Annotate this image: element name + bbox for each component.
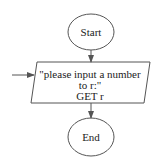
flowchart-canvas: Start "please input a number to r:" GET …	[0, 0, 163, 165]
input-label-line-3: GET r	[76, 90, 104, 102]
start-label: Start	[81, 26, 102, 38]
end-node: End	[68, 118, 114, 156]
end-label: End	[82, 131, 100, 143]
start-node: Start	[68, 14, 114, 50]
input-node: "please input a number to r:" GET r	[31, 62, 150, 103]
